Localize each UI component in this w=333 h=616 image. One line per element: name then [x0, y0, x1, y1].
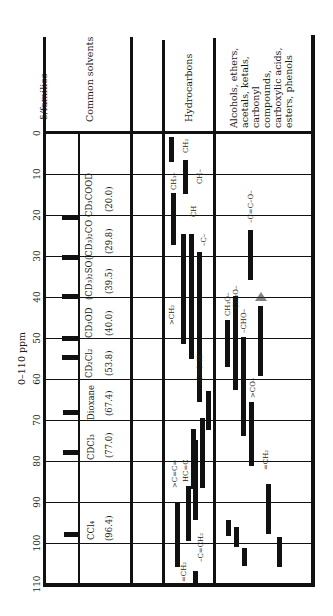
solvent-marker-cdcl3: [63, 450, 78, 455]
bar-ch: [181, 234, 186, 344]
solvent-marker-cd2cl2: [62, 355, 78, 360]
label-c-ch2: –C=CH₂: [197, 533, 205, 562]
solvent-marker-dmso: [62, 294, 78, 299]
tick-90: 90: [32, 491, 42, 513]
bar-co: [249, 402, 254, 466]
bar-epoxide: [258, 306, 263, 376]
tick-30: 30: [32, 245, 42, 267]
label-ch3o: CH₃O–: [224, 292, 232, 316]
column-header-solvents: Common solvents: [85, 37, 95, 122]
tick-50: 50: [32, 327, 42, 349]
solvent-name: CD₃COOD: [84, 173, 94, 217]
bar-ketal: [242, 548, 247, 566]
solvent-marker-cd3od: [62, 336, 78, 341]
label-ch2: >CH₂: [168, 305, 176, 325]
bar-acetal-1: [226, 520, 231, 536]
label-alkyne-h: –C≡C–H: [196, 355, 204, 385]
column-header-hydrocarbons: Hydrocarbons: [184, 54, 194, 122]
bar-cho: [241, 337, 246, 436]
tick-60: 60: [32, 368, 42, 390]
label-hc-c: HC=C: [182, 459, 190, 482]
bar-alkyne-c: [200, 418, 205, 488]
tick-80: 80: [32, 450, 42, 472]
divider-solvents-inner: [78, 133, 80, 584]
border-left: [43, 37, 46, 586]
grid-50: [46, 338, 311, 339]
solvent-value: (39.5): [104, 268, 114, 294]
label-alkyne-ether: –C=C–O–: [247, 190, 255, 223]
label-co: >CO–: [249, 378, 257, 398]
solvent-name: CDCl₃: [86, 434, 96, 460]
tick-10: 10: [32, 163, 42, 185]
bar-allene: [175, 503, 180, 567]
label-ch-ring: CH–: [196, 169, 204, 184]
border-right: [311, 35, 315, 586]
axis-label: 0–110 ppm: [17, 332, 27, 385]
solvent-value: (20.0): [104, 186, 114, 212]
bar-ch3: [171, 193, 176, 245]
bar-ch2: [189, 234, 194, 359]
divider-hydrocarbons: [213, 38, 216, 586]
bar-ortho-ester: [277, 537, 282, 567]
solvent-name: CD₃OD: [84, 307, 94, 338]
bar-acetal-2: [234, 527, 239, 547]
label-quaternary: –C–: [200, 234, 208, 246]
column-header-alcohols: Alcohols, ethers, acetals, ketals, carbo…: [228, 48, 294, 128]
bar-alkyne-ether: [248, 230, 253, 280]
label-cho: –CHO–: [240, 309, 248, 333]
top-border: [43, 131, 315, 134]
solvent-value: (53.8): [104, 350, 114, 376]
solvent-marker-acetone: [62, 255, 78, 260]
solvent-value: (40.0): [104, 310, 114, 336]
tick-20: 20: [32, 204, 42, 226]
grid-70: [46, 420, 311, 421]
solvent-value: (67.4): [104, 390, 114, 416]
label-ch2o: CH₂O–: [232, 285, 240, 309]
tick-100: 100: [32, 532, 42, 554]
label-ch2-ring: CH₂: [182, 139, 190, 153]
bar-cyclopropane-ch: [183, 160, 188, 194]
solvent-marker-dioxane: [63, 410, 78, 415]
bar-hc-c: [186, 486, 191, 541]
divider-solvents: [130, 37, 133, 586]
bar-enol-ch2: [266, 484, 271, 534]
label-ch: CH: [190, 206, 198, 217]
solvent-marker-ccl4: [64, 532, 78, 537]
solvent-value: (96.4): [104, 515, 114, 541]
solvent-value: (77.0): [104, 432, 114, 458]
tick-0: 0: [32, 122, 42, 144]
label-enol-ch2: =CH₂: [262, 450, 270, 470]
label-ch2-terminal: =CH₂: [180, 562, 188, 582]
tick-70: 70: [32, 409, 42, 431]
bar-ch3o: [225, 320, 230, 367]
label-allene: >C=C=: [171, 460, 179, 488]
epoxide-icon: [255, 292, 267, 301]
tick-110: 110: [32, 573, 42, 595]
grid-60: [46, 379, 311, 380]
solvent-name: (CD₃)₂SO: [84, 260, 94, 300]
bar-alkyne-ch: [206, 391, 211, 430]
bar-c-ch2: [193, 440, 198, 520]
label-ch3: CH₃–: [170, 172, 178, 190]
solvent-name: Dioxane: [86, 385, 96, 420]
bar-terminal-ch2: [193, 571, 198, 584]
divider-hydro-left: [162, 40, 165, 586]
bar-ch2o: [233, 296, 238, 390]
tick-40: 40: [32, 286, 42, 308]
solvent-name: (CD₃)₂CO: [84, 220, 94, 260]
bar-cyclopropane-ch2: [169, 137, 174, 162]
bottom-border: [43, 583, 315, 587]
solvent-marker-cd3cood: [62, 215, 78, 220]
solvent-name: CCl₄: [86, 521, 96, 540]
solvent-name: CD₂Cl₂: [84, 349, 94, 378]
solvent-value: (29.8): [104, 228, 114, 254]
